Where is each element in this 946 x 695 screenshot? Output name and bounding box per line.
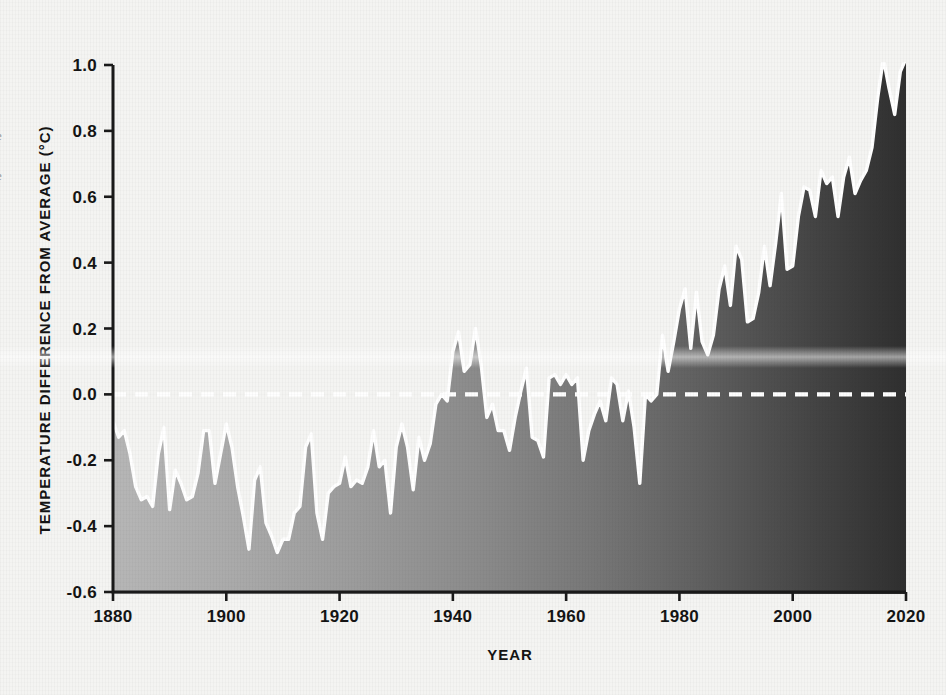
x-tick-label: 1960 — [547, 607, 586, 626]
page-edge-fragment-upper: e — [0, 128, 2, 144]
x-tick-label: 1880 — [93, 607, 132, 626]
y-tick-label: 0.8 — [72, 122, 97, 141]
y-tick-label: -0.6 — [67, 583, 98, 602]
y-tick-label: 0.2 — [72, 320, 97, 339]
y-tick-label: 0.6 — [72, 188, 97, 207]
page-edge-fragment-lower: e — [0, 168, 2, 184]
temperature-anomaly-chart: -0.6-0.4-0.20.00.20.40.60.81.0 188019001… — [0, 0, 946, 695]
y-tick-label: 0.4 — [72, 254, 97, 273]
y-tick-label: 0.0 — [72, 385, 97, 404]
x-tick-label: 1900 — [207, 607, 246, 626]
area-series-group — [113, 58, 906, 598]
x-axis-title: YEAR — [487, 646, 533, 663]
x-tick-label: 1940 — [433, 607, 472, 626]
y-tick-label: 1.0 — [72, 56, 97, 75]
y-axis-tick-labels: -0.6-0.4-0.20.00.20.40.60.81.0 — [67, 56, 98, 602]
x-axis-tick-labels: 18801900192019401960198020002020 — [93, 607, 925, 626]
y-axis-title: TEMPERATURE DIFFERENCE FROM AVERAGE (°C) — [36, 125, 53, 534]
x-tick-label: 1980 — [660, 607, 699, 626]
x-tick-label: 2000 — [773, 607, 812, 626]
y-tick-label: -0.2 — [67, 451, 98, 470]
area-fill — [113, 58, 906, 598]
x-tick-label: 2020 — [886, 607, 925, 626]
x-tick-label: 1920 — [320, 607, 359, 626]
y-tick-label: -0.4 — [67, 517, 98, 536]
figure-container: -0.6-0.4-0.20.00.20.40.60.81.0 188019001… — [0, 0, 946, 695]
